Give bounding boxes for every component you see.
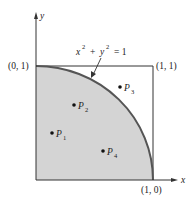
point-dot	[72, 103, 76, 107]
corner-label-top-right: (1, 1)	[156, 61, 177, 72]
svg-text:2: 2	[82, 43, 85, 50]
svg-text:2: 2	[85, 106, 88, 113]
point-p3: P 3	[118, 83, 134, 95]
point-dot	[50, 131, 54, 135]
point-dot	[101, 149, 105, 153]
y-axis-label: y	[39, 11, 45, 21]
corner-label-bottom-right: (1, 0)	[141, 185, 162, 196]
y-axis-arrow-icon	[34, 12, 38, 19]
svg-text:1: 1	[63, 134, 66, 141]
svg-text:P: P	[123, 83, 130, 93]
quarter-disk-region	[36, 66, 153, 180]
x-axis-label: x	[180, 175, 186, 185]
svg-text:P: P	[55, 129, 62, 139]
svg-text:P: P	[106, 147, 113, 157]
x-axis-arrow-icon	[171, 178, 178, 182]
svg-text:y: y	[99, 47, 105, 57]
svg-text:2: 2	[106, 43, 109, 50]
svg-text:3: 3	[131, 88, 134, 95]
point-dot	[118, 85, 122, 89]
svg-text:x: x	[75, 47, 81, 57]
svg-text:P: P	[77, 101, 84, 111]
svg-text:= 1: = 1	[114, 47, 127, 57]
equation-label: x 2 + y 2 = 1	[75, 43, 127, 57]
corner-label-top-left: (0, 1)	[8, 61, 29, 72]
quarter-circle-diagram: y x (0, 1) (1, 1) (1, 0) x 2 + y 2 = 1 P…	[0, 0, 196, 203]
equation-pointer-arrow-icon	[91, 71, 96, 78]
svg-text:+: +	[90, 47, 95, 57]
